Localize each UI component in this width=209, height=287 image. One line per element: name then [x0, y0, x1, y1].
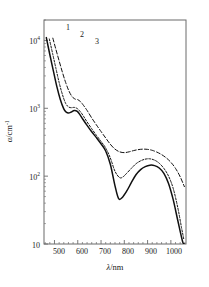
- data-curves: [46, 38, 184, 244]
- xtick-label-1000: 1000: [161, 248, 187, 256]
- xtick-label-800: 800: [116, 248, 140, 256]
- xtick-label-700: 700: [93, 248, 117, 256]
- ytick-label-100: 102: [20, 172, 40, 182]
- curve-3: [53, 38, 185, 186]
- xtick-label-500: 500: [47, 248, 71, 256]
- ytick-label-1000: 103: [20, 104, 40, 114]
- figure-container: 104 103 102 10 α/cm-1 500 600 700 800 90…: [0, 0, 209, 287]
- curve-label-3: 3: [95, 38, 99, 46]
- xtick-label-600: 600: [70, 248, 94, 256]
- curve-label-1: 1: [66, 24, 70, 32]
- ytick-label-10000: 104: [20, 36, 40, 46]
- curve-label-2: 2: [80, 31, 84, 39]
- y-axis-title: α/cm-1: [2, 104, 16, 164]
- plot-frame: [44, 20, 186, 244]
- ytick-label-10: 10: [20, 240, 40, 250]
- axis-ticks: [44, 20, 185, 244]
- x-axis-title: λ/nm: [85, 263, 145, 272]
- curve-2: [49, 39, 183, 239]
- xtick-label-900: 900: [139, 248, 163, 256]
- curve-1: [46, 38, 184, 244]
